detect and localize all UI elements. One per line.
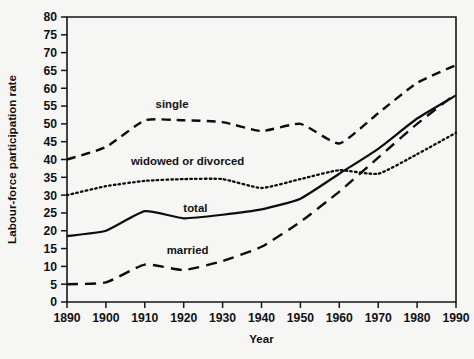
y-tick-label: 55 bbox=[43, 99, 57, 113]
y-tick-label: 40 bbox=[43, 153, 57, 167]
y-tick-label: 70 bbox=[43, 46, 57, 60]
y-axis-title: Labour-force participation rate bbox=[5, 75, 18, 244]
x-tick-label: 1970 bbox=[365, 311, 392, 325]
x-tick-label: 1890 bbox=[53, 311, 80, 325]
y-tick-label: 30 bbox=[43, 189, 57, 203]
x-tick-label: 1920 bbox=[170, 311, 197, 325]
y-tick-label: 50 bbox=[43, 117, 57, 131]
y-tick-label: 75 bbox=[43, 28, 57, 42]
x-tick-label: 1910 bbox=[131, 311, 158, 325]
y-tick-label: 35 bbox=[43, 171, 57, 185]
y-tick-label: 45 bbox=[43, 135, 57, 149]
x-tick-label: 1950 bbox=[287, 311, 314, 325]
y-tick-label: 20 bbox=[43, 224, 57, 238]
y-tick-label: 15 bbox=[43, 242, 57, 256]
series-label-married: married bbox=[167, 244, 209, 256]
chart-figure: 0510152025303540455055606570758018901900… bbox=[0, 0, 474, 359]
y-tick-label: 25 bbox=[43, 206, 57, 220]
series-label-widowed-or-divorced: widowed or divorced bbox=[130, 155, 244, 167]
plot-frame bbox=[67, 17, 456, 302]
y-tick-label: 5 bbox=[50, 278, 57, 292]
series-label-total: total bbox=[183, 202, 207, 214]
series-line-single bbox=[67, 65, 456, 159]
y-tick-label: 10 bbox=[43, 260, 57, 274]
x-tick-label: 1980 bbox=[404, 311, 431, 325]
x-tick-label: 1940 bbox=[248, 311, 275, 325]
x-tick-label: 1990 bbox=[442, 311, 469, 325]
y-tick-label: 60 bbox=[43, 82, 57, 96]
series-line-widowed-or-divorced bbox=[67, 133, 456, 195]
x-tick-label: 1930 bbox=[209, 311, 236, 325]
x-axis-title: Year bbox=[249, 332, 274, 345]
x-tick-label: 1900 bbox=[92, 311, 119, 325]
y-tick-label: 65 bbox=[43, 64, 57, 78]
line-chart: 0510152025303540455055606570758018901900… bbox=[0, 0, 474, 359]
y-tick-label: 0 bbox=[50, 295, 57, 309]
x-tick-label: 1960 bbox=[326, 311, 353, 325]
series-label-single: single bbox=[156, 98, 189, 110]
y-tick-label: 80 bbox=[43, 10, 57, 24]
